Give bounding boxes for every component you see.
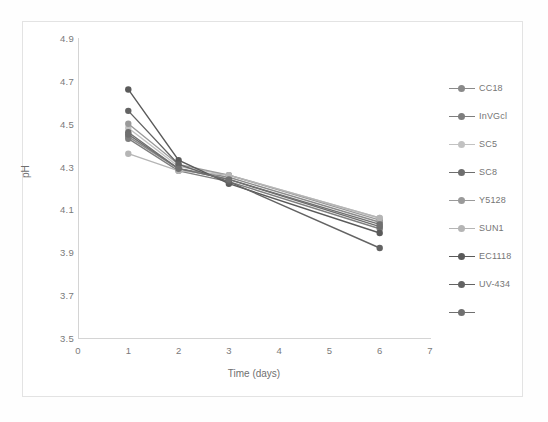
legend-label: SC8 <box>479 167 497 177</box>
y-tick-label: 4.9 <box>40 33 74 44</box>
legend-item-unnamed-8[interactable] <box>449 298 523 326</box>
legend-label: EC1118 <box>479 251 511 261</box>
y-tick-label: 3.9 <box>40 247 74 258</box>
data-point-marker <box>377 245 383 251</box>
y-axis-title: pH <box>20 165 31 178</box>
legend-label: CC18 <box>479 83 503 93</box>
legend-label: Y5128 <box>479 195 506 205</box>
y-axis-tick-labels: 3.53.73.94.14.34.54.74.9 <box>36 38 74 338</box>
x-tick-label: 0 <box>68 345 88 356</box>
legend-label: UV-434 <box>479 279 510 289</box>
legend-item-SC5[interactable]: SC5 <box>449 130 523 158</box>
legend-item-UV-434[interactable]: UV-434 <box>449 270 523 298</box>
legend-marker-icon <box>449 195 475 206</box>
x-axis-title: Time (days) <box>78 368 430 379</box>
legend-item-InVGcl[interactable]: InVGcl <box>449 102 523 130</box>
y-tick-label: 4.5 <box>40 118 74 129</box>
legend: CC18InVGclSC5SC8Y5128SUN1EC1118UV-434 <box>449 74 523 326</box>
series-SC8 <box>125 129 383 230</box>
data-point-marker <box>377 230 383 236</box>
series-lines <box>78 38 430 338</box>
series-line <box>128 124 379 220</box>
data-point-marker <box>125 108 131 114</box>
legend-item-SC8[interactable]: SC8 <box>449 158 523 186</box>
series-line <box>128 111 379 248</box>
legend-label: SC5 <box>479 139 497 149</box>
series-unnamed-8 <box>125 131 383 227</box>
data-point-marker <box>125 151 131 157</box>
x-tick-label: 7 <box>420 345 440 356</box>
series-CC18 <box>125 133 383 225</box>
legend-marker-icon <box>449 251 475 262</box>
y-tick-label: 3.5 <box>40 333 74 344</box>
legend-marker-icon <box>449 279 475 290</box>
legend-label: InVGcl <box>479 111 507 121</box>
legend-label: SUN1 <box>479 223 504 233</box>
x-tick-label: 6 <box>370 345 390 356</box>
data-point-marker <box>377 221 383 227</box>
legend-item-SUN1[interactable]: SUN1 <box>449 214 523 242</box>
data-point-marker <box>125 86 131 92</box>
x-axis-tick-labels: 01234567 <box>78 345 430 361</box>
x-axis-line <box>78 338 431 339</box>
data-point-marker <box>125 121 131 127</box>
legend-item-Y5128[interactable]: Y5128 <box>449 186 523 214</box>
legend-item-CC18[interactable]: CC18 <box>449 74 523 102</box>
y-tick-label: 4.3 <box>40 161 74 172</box>
legend-marker-icon <box>449 139 475 150</box>
legend-item-EC1118[interactable]: EC1118 <box>449 242 523 270</box>
legend-marker-icon <box>449 167 475 178</box>
data-point-marker <box>175 166 181 172</box>
y-tick-label: 3.7 <box>40 290 74 301</box>
y-tick-label: 4.7 <box>40 75 74 86</box>
y-tick-label: 4.1 <box>40 204 74 215</box>
legend-marker-icon <box>449 223 475 234</box>
series-UV-434 <box>125 108 383 252</box>
series-InVGcl <box>125 136 383 232</box>
x-tick-label: 4 <box>269 345 289 356</box>
data-point-marker <box>226 176 232 182</box>
figure-canvas: 3.53.73.94.14.34.54.74.9 01234567 pH Tim… <box>0 0 548 422</box>
data-point-marker <box>125 131 131 137</box>
legend-marker-icon <box>449 111 475 122</box>
series-line <box>128 132 379 226</box>
legend-marker-icon <box>449 83 475 94</box>
plot-area <box>78 38 430 338</box>
x-tick-label: 2 <box>169 345 189 356</box>
data-point-marker <box>377 215 383 221</box>
x-tick-label: 1 <box>118 345 138 356</box>
x-tick-label: 5 <box>319 345 339 356</box>
x-tick-label: 3 <box>219 345 239 356</box>
legend-marker-icon <box>449 307 475 318</box>
